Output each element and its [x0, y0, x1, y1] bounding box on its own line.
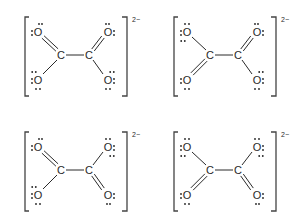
- left-bracket: [25, 132, 29, 211]
- lone-pair-dot: [113, 71, 115, 73]
- left-bracket: [25, 17, 29, 96]
- lone-pair-dot: [257, 23, 259, 25]
- lone-pair-dot: [254, 138, 256, 140]
- right-bracket: [122, 132, 127, 211]
- oxygen-atom: O: [183, 189, 192, 201]
- lone-pair-dot: [31, 186, 33, 188]
- lone-pair-dot: [188, 203, 190, 205]
- lone-pair-dot: [262, 197, 264, 199]
- lone-pair-dot: [106, 203, 108, 205]
- lone-pair-dot: [113, 149, 115, 151]
- lone-pair-dot: [262, 78, 264, 80]
- carbon-atom: C: [234, 164, 242, 176]
- lone-pair-dot: [31, 78, 33, 80]
- lone-pair-dot: [184, 138, 186, 140]
- lone-pair-dot: [180, 155, 182, 157]
- oxygen-atom: O: [104, 189, 113, 201]
- lone-pair-dot: [109, 203, 111, 205]
- lone-pair-dot: [180, 197, 182, 199]
- lone-pair-dot: [113, 145, 115, 147]
- lone-pair-dot: [113, 197, 115, 199]
- lone-pair-dot: [35, 88, 37, 90]
- lone-pair-dot: [180, 40, 182, 42]
- right-bracket: [271, 132, 276, 211]
- lone-pair-dot: [31, 145, 33, 147]
- lone-pair-dot: [262, 82, 264, 84]
- lone-pair-dot: [258, 71, 260, 73]
- lone-pair-dot: [38, 138, 40, 140]
- charge-label: 2−: [281, 131, 289, 138]
- right-bracket: [271, 17, 276, 96]
- lone-pair-dot: [188, 23, 190, 25]
- lone-pair-dot: [184, 88, 186, 90]
- oxygen-atom: O: [253, 74, 262, 86]
- lone-pair-dot: [109, 138, 111, 140]
- charge-label: 2−: [132, 131, 140, 138]
- resonance-structure-top-left: 2−CCOOOO: [25, 16, 140, 96]
- oxygen-atom: O: [34, 189, 43, 201]
- charge-label: 2−: [281, 16, 289, 23]
- carbon-atom: C: [57, 49, 65, 61]
- left-bracket: [174, 17, 178, 96]
- lone-pair-dot: [41, 138, 43, 140]
- lone-pair-dot: [254, 88, 256, 90]
- carbon-atom: C: [206, 164, 214, 176]
- lone-pair-dot: [105, 23, 107, 25]
- lone-pair-dot: [35, 186, 37, 188]
- lone-pair-dot: [180, 193, 182, 195]
- oxygen-atom: O: [34, 74, 43, 86]
- oxygen-atom: O: [253, 189, 262, 201]
- oxygen-atom: O: [253, 26, 262, 38]
- lone-pair-dot: [35, 71, 37, 73]
- lone-pair-dot: [39, 203, 41, 205]
- left-bracket: [174, 132, 178, 211]
- lone-pair-dot: [188, 88, 190, 90]
- carbon-atom: C: [85, 49, 93, 61]
- lone-pair-dot: [31, 149, 33, 151]
- lone-pair-dot: [262, 145, 264, 147]
- lone-pair-dot: [108, 23, 110, 25]
- lone-pair-dot: [31, 34, 33, 36]
- lone-pair-dot: [113, 30, 115, 32]
- oxygen-atom: O: [104, 141, 113, 153]
- lone-pair-dot: [38, 23, 40, 25]
- oxygen-atom: O: [183, 74, 192, 86]
- lone-pair-dot: [184, 155, 186, 157]
- oxygen-atom: O: [34, 26, 43, 38]
- lone-pair-dot: [254, 23, 256, 25]
- lone-pair-dot: [113, 155, 115, 157]
- lone-pair-dot: [31, 71, 33, 73]
- oxygen-atom: O: [104, 74, 113, 86]
- lone-pair-dot: [184, 40, 186, 42]
- lone-pair-dot: [188, 138, 190, 140]
- resonance-diagram: 2−CCOOOO2−CCOOOO2−CCOOOO2−CCOOOO: [0, 0, 299, 223]
- charge-label: 2−: [132, 16, 140, 23]
- lone-pair-dot: [262, 34, 264, 36]
- oxygen-atom: O: [253, 141, 262, 153]
- lone-pair-dot: [180, 78, 182, 80]
- lone-pair-dot: [184, 203, 186, 205]
- lone-pair-dot: [180, 34, 182, 36]
- lone-pair-dot: [31, 193, 33, 195]
- lone-pair-dot: [180, 30, 182, 32]
- lone-pair-dot: [184, 23, 186, 25]
- right-bracket: [122, 17, 127, 96]
- lone-pair-dot: [113, 34, 115, 36]
- carbon-atom: C: [57, 164, 65, 176]
- lone-pair-dot: [262, 30, 264, 32]
- lone-pair-dot: [262, 193, 264, 195]
- resonance-structure-bottom-left: 2−CCOOOO: [25, 131, 140, 211]
- lone-pair-dot: [180, 145, 182, 147]
- lone-pair-dot: [258, 88, 260, 90]
- lone-pair-dot: [262, 149, 264, 151]
- lone-pair-dot: [41, 23, 43, 25]
- carbon-atom: C: [234, 49, 242, 61]
- lone-pair-dot: [180, 149, 182, 151]
- lone-pair-dot: [105, 88, 107, 90]
- oxygen-atom: O: [104, 26, 113, 38]
- lone-pair-dot: [113, 82, 115, 84]
- lone-pair-dot: [31, 30, 33, 32]
- carbon-atom: C: [206, 49, 214, 61]
- lone-pair-dot: [113, 78, 115, 80]
- resonance-structure-bottom-right: 2−CCOOOO: [174, 131, 289, 211]
